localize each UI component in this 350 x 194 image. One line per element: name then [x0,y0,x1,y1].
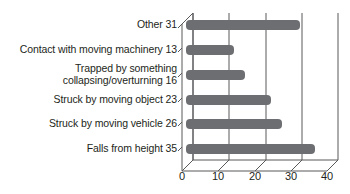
category-label-contact-machinery: Contact with moving machinery 13 [20,44,177,56]
x-tick-label-0: 0 [179,170,185,182]
bar-struck-vehicle [186,119,282,129]
x-tick-label-30: 30 [285,170,297,182]
category-label-falls-height: Falls from height 35 [87,143,177,155]
bar-contact-machinery [186,45,234,55]
category-label-struck-vehicle: Struck by moving vehicle 26 [49,118,177,130]
x-tick-label-20: 20 [249,170,261,182]
bar-trapped [186,70,245,80]
gridlines [193,13,338,160]
category-label-list: Other 31 Contact with moving machinery 1… [0,0,181,194]
category-label-struck-object: Struck by moving object 23 [54,94,177,106]
bar-falls-height [186,144,315,154]
x-tick-label-10: 10 [212,170,224,182]
bar-struck-object [186,95,271,105]
bars [186,20,315,154]
x-axis-tick-labels: 0 10 20 30 40 [0,170,350,194]
bar-other [186,20,300,30]
x-tick-label-40: 40 [321,170,333,182]
bar-chart: Other 31 Contact with moving machinery 1… [0,0,350,194]
category-label-trapped: Trapped by something collapsing/overturn… [63,63,177,86]
category-label-other: Other 31 [137,19,177,31]
